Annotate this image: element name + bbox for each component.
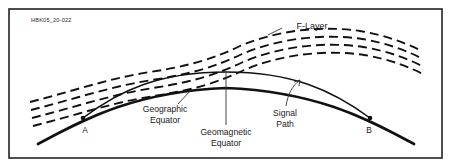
diagram-canvas: HBK05_20-022 F-Layer Geographic Equator …	[0, 0, 450, 168]
geomagnetic-equator-label-line2: Equator	[211, 138, 241, 148]
geomagnetic-equator-label-line1: Geomagnetic	[200, 127, 252, 137]
signal-path-label-line1: Signal	[273, 108, 297, 118]
figure-id-label: HBK05_20-022	[31, 17, 72, 23]
geographic-equator-label-line1: Geographic	[143, 104, 188, 114]
f-layer-label: F-Layer	[296, 21, 327, 31]
geographic-equator-label-line2: Equator	[150, 115, 180, 125]
point-b-label: B	[366, 125, 372, 135]
point-b-marker	[368, 116, 373, 121]
point-a-marker	[81, 116, 86, 121]
figure-container: HBK05_20-022 F-Layer Geographic Equator …	[0, 0, 450, 168]
point-a-label: A	[82, 125, 88, 135]
signal-path-leader	[286, 80, 300, 106]
signal-path-arc	[83, 72, 370, 118]
signal-path-label-line2: Path	[276, 119, 294, 129]
f-layer-group	[30, 29, 423, 126]
